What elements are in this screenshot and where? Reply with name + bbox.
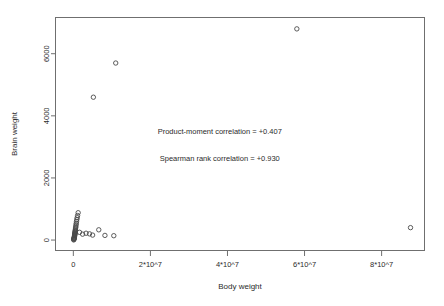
- x-axis-title: Body weight: [218, 282, 262, 291]
- x-tick-label: 4*10^7: [216, 260, 239, 269]
- scatter-plot-figure: 0200040006000 02*10^74*10^76*10^78*10^7 …: [0, 0, 444, 306]
- correlation-annotation: Product-moment correlation = +0.407: [158, 127, 282, 136]
- chart-canvas: 0200040006000 02*10^74*10^76*10^78*10^7 …: [0, 0, 444, 306]
- x-tick-label: 2*10^7: [139, 260, 162, 269]
- y-tick-label: 2000: [43, 170, 52, 187]
- y-axis-title: Brain weight: [10, 111, 19, 156]
- correlation-annotation: Spearman rank correlation = +0.930: [160, 154, 280, 163]
- x-tick-label: 8*10^7: [370, 260, 393, 269]
- y-tick-label: 6000: [43, 45, 52, 62]
- y-tick-label: 0: [43, 238, 52, 242]
- x-tick-label: 0: [71, 260, 75, 269]
- y-tick-label: 4000: [43, 107, 52, 124]
- x-tick-label: 6*10^7: [293, 260, 316, 269]
